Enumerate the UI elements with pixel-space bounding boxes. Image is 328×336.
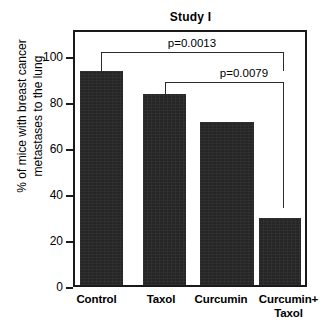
y-axis-label-0: 0 [23,281,63,293]
x-axis-label-curcumin-taxol: Curcumin+ Taxol [249,292,328,320]
bar-taxol [143,94,186,285]
bar-control [80,71,123,285]
y-axis-label-100: 100 [23,51,63,63]
y-axis-label-80: 80 [23,97,63,109]
p-value-label-0079: p=0.0079 [185,67,303,79]
bar-curcumin-taxol [259,218,301,285]
bracket-right-leg [283,82,284,208]
y-axis-title: % of mice with breast cancer metastases … [14,0,46,256]
y-axis-label-60: 60 [23,143,63,155]
y-axis-label-40: 40 [23,189,63,201]
x-axis-label-control: Control [60,292,133,306]
y-axis-tick-80 [66,103,73,105]
y-axis-title-line-1: % of mice with breast cancer [14,0,30,256]
p-value-label-0013: p=0.0013 [121,37,263,49]
x-axis-label-curcumin-taxol-line-1: Curcumin+ [249,292,328,306]
y-axis-title-line-2: metastases to the lung [30,0,46,256]
y-axis-tick-20 [66,241,73,243]
bar-curcumin [200,122,254,285]
bar-chart-figure: Study I % of mice with breast cancer met… [0,0,328,336]
bracket-top-line [101,52,283,53]
bracket-top-line [165,82,283,83]
y-axis-tick-100 [66,57,73,59]
bracket-left-leg [165,82,166,94]
bracket-left-leg [101,52,102,71]
chart-title: Study I [73,10,308,24]
y-axis-tick-0 [66,287,73,289]
x-axis-label-curcumin-taxol-line-2: Taxol [249,306,328,320]
y-axis-tick-60 [66,149,73,151]
y-axis-label-20: 20 [23,235,63,247]
y-axis-tick-40 [66,195,73,197]
